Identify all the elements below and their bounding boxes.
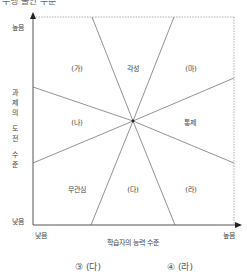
region-da: (다) [127,184,138,194]
region-ga: (가) [71,63,82,73]
region-arousal: 각성 [127,63,139,73]
region-na: (나) [71,117,82,127]
region-ra: (라) [185,184,196,194]
region-apathy: 무관심 [68,184,86,194]
region-ma: (마) [185,63,196,73]
x-axis-label: 학습자의 능력 수준 [107,237,159,247]
region-control: 통제 [184,117,196,127]
option-4[interactable]: ④ (라) [167,260,193,273]
center-point [132,120,135,123]
x-axis-arrow-icon [235,222,242,228]
y-axis-high-label: 높음 [12,22,24,32]
option-3[interactable]: ③ (다) [75,260,101,273]
y-axis-low-label: 낮음 [12,216,24,226]
x-axis-low-label: 낮음 [35,230,47,240]
x-axis-high-label: 높음 [223,230,235,240]
y-axis-label: 과 제 의 도 전 수 준 [10,88,20,170]
y-axis-arrow-icon [30,12,36,19]
